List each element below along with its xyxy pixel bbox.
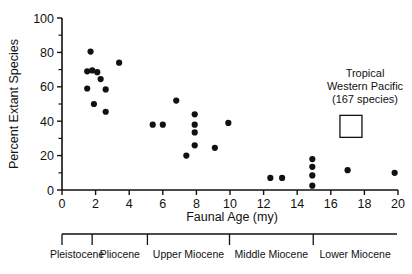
data-point — [160, 122, 166, 128]
epoch-labels: PleistocenePlioceneUpper MioceneMiddle M… — [50, 248, 391, 260]
x-tick-label: 10 — [223, 197, 237, 211]
x-tick-label: 2 — [92, 197, 99, 211]
y-tick-label: 20 — [40, 149, 54, 163]
x-tick-label: 0 — [59, 197, 66, 211]
data-point — [309, 183, 315, 189]
data-point — [225, 120, 231, 126]
open-square-marker — [340, 115, 362, 137]
x-tick-label: 14 — [290, 197, 304, 211]
data-point — [267, 175, 273, 181]
data-point — [103, 109, 109, 115]
data-point — [309, 172, 315, 178]
data-point — [116, 60, 122, 66]
x-axis-tick-labels: 02468101214161820 — [59, 197, 405, 211]
data-point — [192, 142, 198, 148]
data-point — [309, 156, 315, 162]
x-tick-label: 4 — [126, 197, 133, 211]
annotation-tropical-western-pacific: Tropical Western Pacific (167 species) — [327, 67, 404, 137]
epoch-scale: PleistocenePlioceneUpper MioceneMiddle M… — [50, 234, 397, 260]
data-point — [173, 97, 179, 103]
data-point — [392, 170, 398, 176]
y-tick-label: 80 — [40, 46, 54, 60]
data-point — [91, 101, 97, 107]
x-tick-label: 6 — [159, 197, 166, 211]
x-tick-label: 18 — [357, 197, 371, 211]
epoch-label: Pleistocene — [50, 248, 104, 260]
y-axis-title: Percent Extant Species — [7, 39, 21, 169]
epoch-label: Middle Miocene — [235, 248, 309, 260]
data-point — [279, 175, 285, 181]
plot-canvas: 020406080100 02468101214161820 Percent E… — [0, 0, 412, 274]
data-point — [150, 122, 156, 128]
x-tick-label: 20 — [391, 197, 405, 211]
x-tick-label: 12 — [257, 197, 271, 211]
data-point — [103, 86, 109, 92]
annotation-line-1: Tropical — [346, 67, 385, 79]
y-axis-tick-labels: 020406080100 — [33, 12, 54, 198]
data-point — [87, 48, 93, 54]
scatter-plot-figure: 020406080100 02468101214161820 Percent E… — [0, 0, 412, 274]
epoch-label: Pliocene — [100, 248, 140, 260]
data-point — [345, 167, 351, 173]
data-point — [192, 129, 198, 135]
x-tick-label: 16 — [324, 197, 338, 211]
data-point — [94, 69, 100, 75]
y-tick-label: 60 — [40, 80, 54, 94]
y-tick-label: 100 — [33, 12, 54, 26]
data-point — [98, 76, 104, 82]
data-point — [192, 111, 198, 117]
data-point — [192, 122, 198, 128]
x-axis-title: Faunal Age (my) — [186, 210, 278, 224]
epoch-label: Lower Miocene — [320, 248, 391, 260]
y-tick-label: 0 — [47, 184, 54, 198]
y-tick-label: 40 — [40, 115, 54, 129]
x-tick-label: 8 — [193, 197, 200, 211]
data-point — [84, 85, 90, 91]
data-point — [212, 145, 218, 151]
data-point — [309, 164, 315, 170]
data-point — [183, 153, 189, 159]
annotation-line-2: Western Pacific — [327, 80, 404, 92]
epoch-label: Upper Miocene — [153, 248, 224, 260]
annotation-line-3: (167 species) — [332, 93, 398, 105]
epoch-boundary-ticks — [62, 234, 313, 245]
